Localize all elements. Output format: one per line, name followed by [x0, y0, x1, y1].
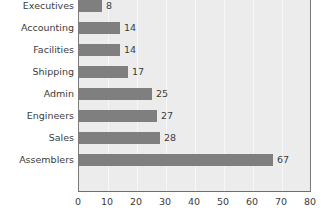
bar-fill: [79, 88, 152, 100]
category-label-assemblers: Assemblers: [0, 154, 74, 166]
category-label-shipping: Shipping: [0, 66, 74, 78]
x-tick-label-50: 50: [208, 196, 238, 208]
bar-engineers[interactable]: [79, 110, 157, 122]
bar-fill: [79, 110, 157, 122]
value-label-facilities: 14: [124, 44, 136, 56]
x-tick-label-20: 20: [121, 196, 151, 208]
bar-sales[interactable]: [79, 132, 160, 144]
value-label-accounting: 14: [124, 22, 136, 34]
x-tick-label-40: 40: [179, 196, 209, 208]
value-label-executives: 8: [106, 0, 112, 12]
bar-fill: [79, 44, 120, 56]
value-label-engineers: 27: [161, 110, 173, 122]
category-label-engineers: Engineers: [0, 110, 74, 122]
x-tick-label-30: 30: [150, 196, 180, 208]
bar-assemblers[interactable]: [79, 154, 273, 166]
x-tick-label-60: 60: [237, 196, 267, 208]
bar-accounting[interactable]: [79, 22, 120, 34]
category-label-sales: Sales: [0, 132, 74, 144]
value-label-shipping: 17: [132, 66, 144, 78]
x-tick-label-10: 10: [92, 196, 122, 208]
category-label-facilities: Facilities: [0, 44, 74, 56]
category-label-executives: Executives: [0, 0, 74, 12]
value-label-assemblers: 67: [277, 154, 289, 166]
x-tick-label-0: 0: [63, 196, 93, 208]
bar-fill: [79, 66, 128, 78]
category-label-admin: Admin: [0, 88, 74, 100]
bar-chart: Executives8Accounting14Facilities14Shipp…: [0, 0, 321, 217]
value-label-sales: 28: [164, 132, 176, 144]
x-tick-label-80: 80: [295, 196, 321, 208]
category-label-accounting: Accounting: [0, 22, 74, 34]
bar-fill: [79, 154, 273, 166]
bar-facilities[interactable]: [79, 44, 120, 56]
bar-executives[interactable]: [79, 0, 102, 12]
bar-admin[interactable]: [79, 88, 152, 100]
bar-fill: [79, 22, 120, 34]
bar-fill: [79, 132, 160, 144]
bar-fill: [79, 0, 102, 12]
x-tick-label-70: 70: [266, 196, 296, 208]
value-label-admin: 25: [156, 88, 168, 100]
bar-shipping[interactable]: [79, 66, 128, 78]
